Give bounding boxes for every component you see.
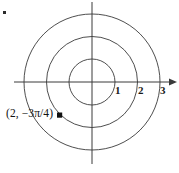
data-point-marker [57, 113, 62, 118]
x-axis-arrow-icon [169, 79, 177, 86]
polar-plot-canvas [0, 0, 179, 173]
corner-speck-artifact [3, 11, 6, 14]
data-point-label: (2, −3π/4) [6, 108, 53, 120]
x-axis-tick-label-3: 3 [160, 85, 166, 96]
x-axis-tick-label-2: 2 [138, 85, 144, 96]
polar-graph-figure: 1 2 3 (2, −3π/4) [0, 0, 179, 173]
x-axis-tick-label-1: 1 [115, 85, 121, 96]
